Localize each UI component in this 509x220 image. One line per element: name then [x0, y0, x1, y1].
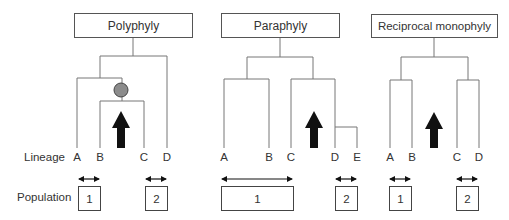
up-arrow-icon	[305, 111, 323, 148]
population-row-label: Population	[17, 191, 71, 203]
leaf-label: C	[137, 151, 151, 163]
leaf-label: B	[93, 151, 107, 163]
leaf-label: C	[284, 151, 298, 163]
leaf-label: B	[405, 151, 419, 163]
leaf-label: C	[450, 151, 464, 163]
population-box: 1	[78, 186, 101, 211]
lineage-row-label: Lineage	[24, 151, 65, 163]
population-box: 2	[335, 186, 358, 211]
leaf-label: A	[217, 151, 231, 163]
leaf-label: D	[472, 151, 486, 163]
population-box: 2	[456, 186, 479, 211]
leaf-label: A	[383, 151, 397, 163]
population-box: 1	[221, 186, 294, 211]
ancestral-node-icon	[114, 83, 128, 97]
panel-title-reciprocal-monophyly: Reciprocal monophyly	[371, 14, 498, 38]
leaf-label: E	[350, 151, 364, 163]
leaf-label: D	[328, 151, 342, 163]
panel-title-paraphyly: Paraphyly	[221, 13, 340, 38]
panel-title-polyphyly: Polyphyly	[74, 13, 193, 38]
population-box: 2	[145, 186, 168, 211]
population-box: 1	[389, 186, 412, 211]
up-arrow-icon	[112, 111, 130, 148]
leaf-label: D	[160, 151, 174, 163]
up-arrow-icon	[425, 112, 443, 148]
leaf-label: A	[70, 151, 84, 163]
paraphyly-tree	[224, 37, 357, 148]
leaf-label: B	[262, 151, 276, 163]
